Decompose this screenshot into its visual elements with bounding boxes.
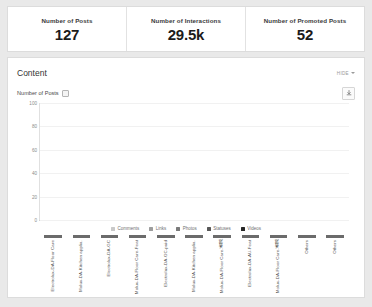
legend-swatch [241,227,245,231]
x-axis-tick-mark [242,235,259,238]
legend-swatch [176,227,180,231]
kpi-posts-label: Number of Posts [41,17,92,24]
x-axis-tick-mark [270,235,287,238]
legend-label: Comments [118,226,140,231]
hide-toggle-label: HIDE [337,71,349,76]
x-axis-label: Electrolux-DA-Floor Care [51,240,55,291]
legend-label: Photos [183,226,197,231]
y-axis-tick: 0 [34,218,37,223]
x-axis-label: Molux-DA-Floor Care-香港 [220,240,224,293]
grid-icon [62,90,69,97]
kpi-interactions-label: Number of Interactions [151,17,221,24]
metric-row: Number of Posts [17,87,355,99]
download-icon [346,90,352,96]
x-axis-label-slot: Electrolux-DA-GC [95,235,123,303]
x-axis-tick-mark [185,235,202,238]
legend-swatch [207,227,211,231]
kpi-interactions: Number of Interactions 29.5k [127,7,246,51]
x-axis-label-slot: Electrolux-DA-AU-Feat [236,235,264,303]
x-axis-label: Molux-DA-Kitchen applia. [192,240,196,292]
kpi-promoted: Number of Promoted Posts 52 [246,7,364,51]
x-axis-label: Others [333,240,337,254]
x-axis-label-slot: Electrolux-DA-GC-paid [152,235,180,303]
legend-item[interactable]: Links [149,226,166,231]
chevron-down-icon [351,72,355,74]
legend-item[interactable]: Photos [176,226,197,231]
bar-slot [68,103,96,220]
y-axis-tick: 60 [32,147,37,152]
x-axis-label-slot: Electrolux-DA-Floor Care [39,235,67,303]
x-axis-label: Others [305,240,309,254]
bar-slot [265,103,293,220]
bar-slot [180,103,208,220]
x-axis-label-slot: Molux-DA-Kitchen applia. [180,235,208,303]
content-header: Content HIDE [17,66,355,80]
x-axis-tick-mark [157,235,174,238]
legend-label: Statuses [213,226,231,231]
bar-slot [209,103,237,220]
x-axis-label-slot: Others [321,235,349,303]
x-axis-label: Molux-DA-Kitchen applia. [79,240,83,292]
y-axis-tick: 100 [29,101,37,106]
chart-plot: 100806040200 [39,103,349,221]
x-axis-tick-mark [326,235,343,238]
x-axis-label: Electrolux-DA-GC-paid [164,240,168,287]
legend-item[interactable]: Videos [241,226,261,231]
bar-series [40,103,349,220]
x-axis-label: Electrolux-DA-AU-Feat [248,240,252,287]
legend-swatch [149,227,153,231]
metric-selector[interactable]: Number of Posts [17,90,69,97]
x-axis-label-slot: Molux-DA-Floor Care-香港 [265,235,293,303]
kpi-posts: Number of Posts 127 [8,7,127,51]
legend-item[interactable]: Statuses [207,226,231,231]
x-axis-tick-mark [101,235,118,238]
kpi-interactions-value: 29.5k [168,27,205,42]
bar-slot [321,103,349,220]
bar-slot [40,103,68,220]
y-axis-tick: 80 [32,124,37,129]
chart-legend: CommentsLinksPhotosStatusesVideos [17,224,355,233]
bar-slot [124,103,152,220]
x-axis-label-slot: Molux-DA-Floor Care-香港 [208,235,236,303]
x-axis-tick-mark [129,235,146,238]
x-axis-tick-mark [44,235,61,238]
kpi-promoted-label: Number of Promoted Posts [264,17,347,24]
kpi-promoted-value: 52 [297,27,313,42]
x-axis-tick-mark [73,235,90,238]
legend-label: Videos [247,226,261,231]
x-axis-label-slot: Others [293,235,321,303]
dashboard-page: Number of Posts 127 Number of Interactio… [0,0,372,307]
content-title: Content [17,68,47,78]
y-axis-tick: 40 [32,171,37,176]
x-axis-label: Molux-DA-Floor Care-香港 [276,240,280,293]
x-axis-label-slot: Molux-DA-Floor Care-Feat [124,235,152,303]
kpi-posts-value: 127 [55,27,79,42]
y-axis-tick: 20 [32,194,37,199]
bar-slot [237,103,265,220]
kpi-card: Number of Posts 127 Number of Interactio… [7,6,365,52]
chart-area: 100806040200 [17,103,355,221]
bar-slot [96,103,124,220]
x-axis-tick-mark [213,235,230,238]
download-button[interactable] [342,87,355,100]
legend-label: Links [156,226,167,231]
hide-toggle[interactable]: HIDE [337,71,355,76]
gridline [40,220,349,221]
content-card: Content HIDE Number of Posts 10080604020… [7,57,365,298]
x-axis-label: Molux-DA-Floor Care-Feat [135,240,139,294]
x-axis-label-slot: Molux-DA-Kitchen applia. [67,235,95,303]
bar-slot [152,103,180,220]
legend-swatch [111,227,115,231]
legend-item[interactable]: Comments [111,226,139,231]
x-axis-labels: Electrolux-DA-Floor CareMolux-DA-Kitchen… [17,235,355,303]
bar-slot [293,103,321,220]
x-axis-label: Electrolux-DA-GC [107,240,111,277]
x-axis-tick-mark [298,235,315,238]
metric-selector-label: Number of Posts [17,90,59,96]
